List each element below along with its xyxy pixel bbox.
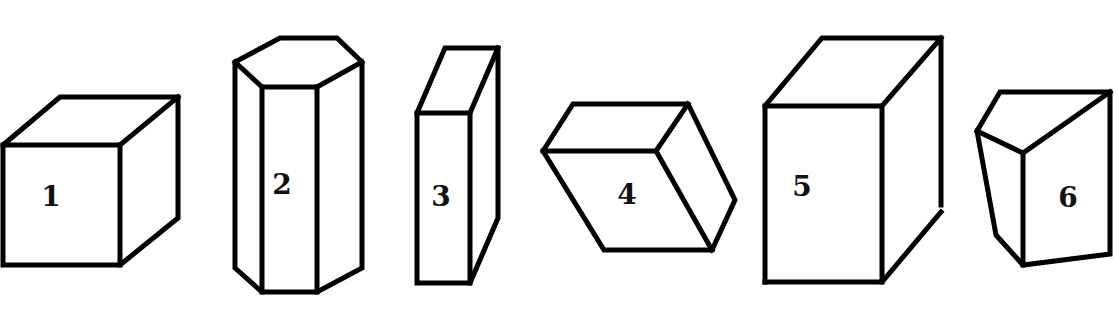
shape-4-tilted-prism: 4: [543, 104, 735, 250]
shape-6-wedge-prism: 6: [977, 92, 1110, 265]
shape-3-thin-prism: 3: [417, 48, 498, 283]
shape-1-cube: 1: [3, 97, 178, 265]
shape-5-rectangular-prism: 5: [765, 38, 941, 282]
shape-3-label: 3: [431, 180, 450, 213]
shape-4-label: 4: [617, 178, 636, 211]
shapes-figure: 1 2 3 4 5 6: [0, 0, 1116, 314]
shape-2-hexagonal-prism: 2: [235, 38, 362, 292]
shape-2-label: 2: [272, 168, 291, 201]
shape-5-label: 5: [792, 170, 811, 203]
shape-6-label: 6: [1058, 181, 1077, 214]
shape-1-label: 1: [41, 180, 60, 213]
